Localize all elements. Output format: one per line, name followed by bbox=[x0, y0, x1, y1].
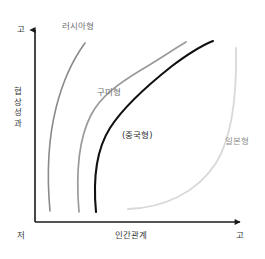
series-label-china: (중국형) bbox=[122, 131, 153, 141]
series-label-western: 구미형 bbox=[97, 88, 121, 98]
x-axis-title: 인간관계 bbox=[115, 228, 147, 240]
series-curve-japan bbox=[128, 48, 236, 209]
series-label-japan: 일본형 bbox=[225, 137, 249, 147]
y-axis-tick-high: 고 bbox=[17, 22, 25, 34]
negotiation-performance-chart: 러시아형 구미형 (중국형) 일본형 고 협 상 성 과 저 고 인간관계 bbox=[0, 0, 265, 259]
y-axis-title-char-2: 상 bbox=[12, 97, 24, 108]
y-axis-title-char-3: 성 bbox=[12, 107, 24, 118]
series-label-russia: 러시아형 bbox=[62, 22, 94, 32]
y-axis-title: 협 상 성 과 bbox=[12, 86, 24, 129]
y-axis-title-char-4: 과 bbox=[12, 118, 24, 129]
y-axis-title-char-1: 협 bbox=[12, 86, 24, 97]
x-axis-tick-low: 저 bbox=[17, 228, 25, 240]
series-curve-russia bbox=[48, 43, 85, 211]
x-axis-tick-high: 고 bbox=[236, 228, 244, 240]
